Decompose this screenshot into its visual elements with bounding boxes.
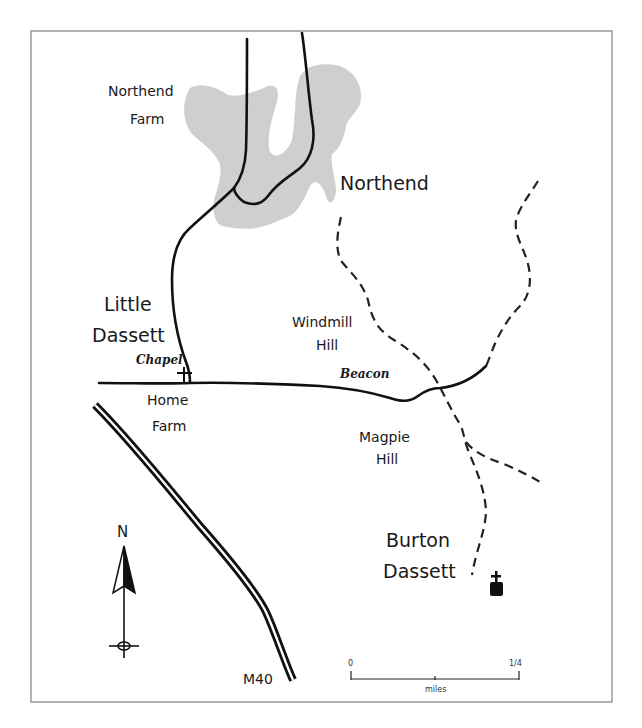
label-beacon: Beacon: [339, 367, 390, 381]
scale-end-label: 1/4: [509, 659, 522, 668]
label-windmill-hill-line1: Windmill: [292, 314, 353, 330]
label-northend-farm-line1: Northend: [108, 83, 174, 99]
map: N 0 1/4 miles Northend Farm Northend Lit…: [0, 0, 642, 728]
north-arrow-label: N: [117, 523, 128, 541]
label-magpie-hill-line1: Magpie: [359, 429, 410, 445]
label-little-dassett-line1: Little: [104, 293, 152, 315]
label-home-farm-line2: Farm: [152, 418, 187, 434]
label-chapel: Chapel: [136, 353, 183, 367]
label-magpie-hill-line2: Hill: [376, 451, 398, 467]
label-m40: M40: [243, 671, 273, 687]
label-northend-farm-line2: Farm: [130, 111, 165, 127]
label-windmill-hill-line2: Hill: [316, 337, 338, 353]
label-burton-dassett-line2: Dassett: [383, 560, 456, 582]
scale-start-label: 0: [348, 659, 353, 668]
scale-unit-label: miles: [425, 685, 446, 694]
label-burton-dassett-line1: Burton: [386, 529, 450, 551]
label-home-farm-line1: Home: [147, 392, 188, 408]
label-northend: Northend: [340, 172, 429, 194]
label-little-dassett-line2: Dassett: [92, 324, 165, 346]
